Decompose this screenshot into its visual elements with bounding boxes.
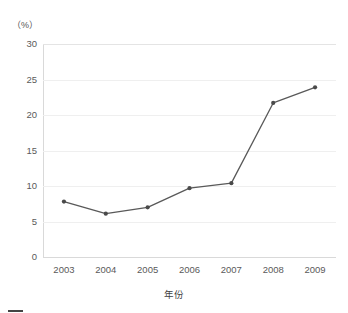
data-point-2004 — [104, 212, 108, 216]
data-point-2008 — [271, 101, 275, 105]
data-point-2003 — [62, 200, 66, 204]
caption-rule — [8, 310, 23, 312]
x-axis-title: 年份 — [0, 287, 348, 301]
series-markers — [62, 85, 317, 216]
data-point-2006 — [187, 186, 191, 190]
series-line — [64, 87, 315, 213]
data-point-2005 — [146, 205, 150, 209]
data-point-2007 — [229, 181, 233, 185]
data-series — [0, 0, 348, 313]
figure-caption — [8, 305, 348, 313]
data-point-2009 — [313, 85, 317, 89]
chart-figure: （%） 051015202530 20032004200520062007200… — [0, 0, 348, 313]
